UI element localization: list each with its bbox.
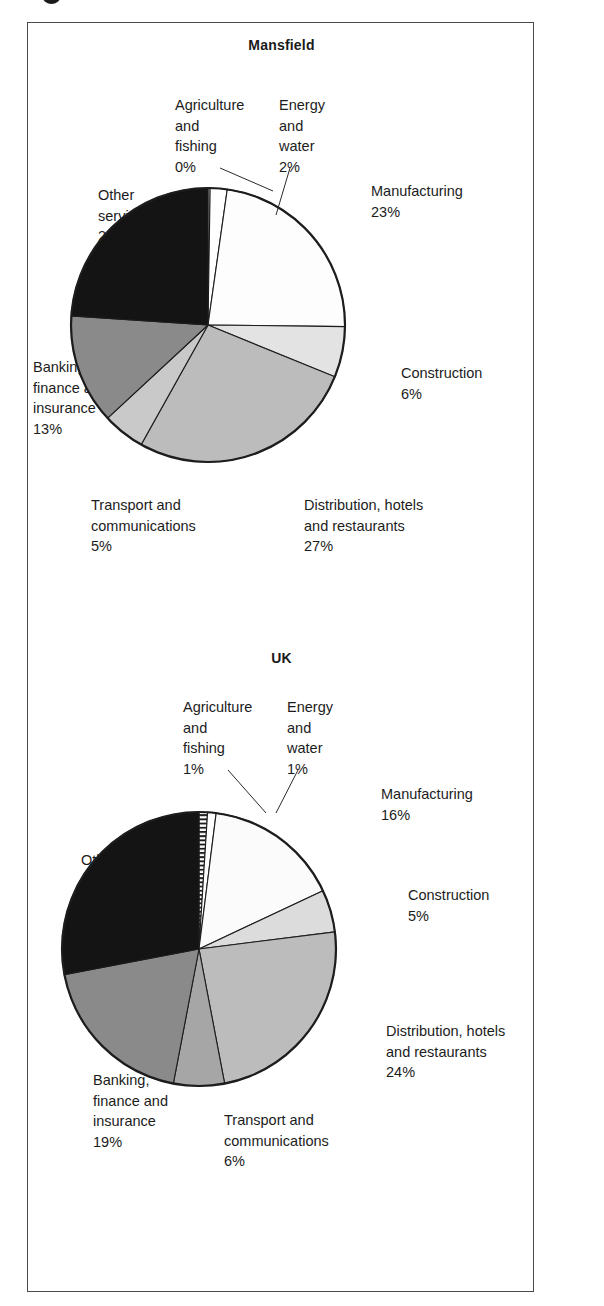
pie-label-mansfield-distribution: Distribution, hotels and restaurants 27% — [304, 495, 494, 557]
pie-label-uk-manufacturing: Manufacturing 16% — [381, 784, 541, 825]
pie-label-mansfield-energy: Energy and water 2% — [279, 95, 359, 177]
pie-label-uk-agriculture: Agriculture and fishing 1% — [183, 697, 278, 779]
pie-label-uk-construction: Construction 5% — [408, 885, 538, 926]
figure-frame: Mansfield Agriculture and fishing 0% Ene… — [27, 22, 534, 1292]
pie-label-uk-energy: Energy and water 1% — [287, 697, 367, 779]
pie-slice — [62, 812, 199, 975]
chart-title-uk: UK — [28, 650, 535, 666]
pie-label-mansfield-construction: Construction 6% — [401, 363, 531, 404]
pie-label-mansfield-agriculture: Agriculture and fishing 0% — [175, 95, 270, 177]
pie-label-uk-distribution: Distribution, hotels and restaurants 24% — [386, 1021, 561, 1083]
chart-title-mansfield: Mansfield — [28, 37, 535, 53]
pie-chart-uk — [60, 810, 338, 1088]
pie-slice — [71, 188, 208, 325]
pie-svg-uk — [60, 810, 338, 1088]
pie-svg-mansfield — [69, 186, 347, 464]
pie-chart-mansfield — [69, 186, 347, 464]
pie-label-mansfield-manufacturing: Manufacturing 23% — [371, 181, 531, 222]
chart-panel-uk: UK Agriculture and fishing 1% Energy and… — [28, 633, 535, 1293]
pie-label-uk-transport: Transport and communications 6% — [224, 1110, 399, 1172]
chart-panel-mansfield: Mansfield Agriculture and fishing 0% Ene… — [28, 23, 535, 633]
scan-artifact-dot — [43, 0, 60, 4]
pie-slice — [208, 189, 345, 326]
pie-label-mansfield-transport: Transport and communications 5% — [91, 495, 266, 557]
